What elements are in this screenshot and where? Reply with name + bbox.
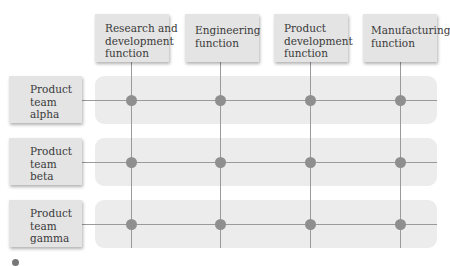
row-label-line: beta	[30, 170, 82, 183]
row-box-beta: Product team beta	[9, 138, 82, 185]
row-box-gamma: Product team gamma	[9, 200, 82, 247]
node-beta-pd	[305, 157, 316, 168]
column-label-line: development	[105, 35, 169, 48]
row-label-line: team	[30, 96, 82, 109]
column-label-line: Product	[284, 22, 348, 35]
column-label-line: function	[105, 47, 169, 60]
node-gamma-eng	[215, 219, 226, 230]
row-label-line: alpha	[30, 108, 82, 121]
node-beta-eng	[215, 157, 226, 168]
column-label-line: function	[195, 37, 259, 50]
column-label-line: function	[284, 47, 348, 60]
column-label-line: function	[371, 37, 437, 50]
column-box-mfg: Manufacturing function	[363, 14, 437, 62]
row-label-line: gamma	[30, 232, 82, 245]
row-label-line: Product	[30, 207, 82, 220]
column-box-rd: Research and development function	[95, 14, 169, 62]
column-label-line: Research and	[105, 22, 169, 35]
node-gamma-rd	[126, 219, 137, 230]
node-beta-rd	[126, 157, 137, 168]
node-gamma-mfg	[395, 219, 406, 230]
column-label-line: Manufacturing	[371, 24, 437, 37]
column-box-pd: Product development function	[274, 14, 348, 62]
node-alpha-eng	[215, 95, 226, 106]
row-label-line: team	[30, 158, 82, 171]
column-label-line: Engineering	[195, 24, 259, 37]
node-beta-mfg	[395, 157, 406, 168]
node-alpha-pd	[305, 95, 316, 106]
node-alpha-mfg	[395, 95, 406, 106]
column-box-eng: Engineering function	[185, 14, 259, 62]
row-label-line: Product	[30, 145, 82, 158]
row-label-line: Product	[30, 83, 82, 96]
row-box-alpha: Product team alpha	[9, 76, 82, 123]
node-alpha-rd	[126, 95, 137, 106]
node-gamma-pd	[305, 219, 316, 230]
legend-dot-icon	[12, 259, 19, 266]
row-label-line: team	[30, 220, 82, 233]
column-label-line: development	[284, 35, 348, 48]
